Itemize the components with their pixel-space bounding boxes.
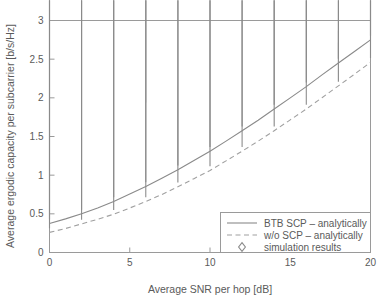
x-tick-label: 0 (47, 257, 53, 268)
figure-container: 00.511.522.53 05101520 Average SNR per h… (0, 0, 390, 303)
y-tick-label: 1.5 (30, 131, 44, 142)
y-tick-label: 0.5 (30, 208, 44, 219)
y-axis-ticks: 00.511.522.53 (30, 15, 55, 258)
x-tick-label: 5 (127, 257, 133, 268)
y-tick-label: 3 (38, 15, 44, 26)
y-tick-label: 1 (38, 170, 44, 181)
legend: BTB SCP – analytically w/o SCP – analyti… (221, 213, 371, 253)
legend-label-simulation-results: simulation results (264, 242, 341, 253)
y-axis-label: Average ergodic capacity per subcarrier … (4, 24, 16, 248)
y-tick-label: 2 (38, 92, 44, 103)
legend-label-wo-scp: w/o SCP – analytically (263, 230, 363, 241)
x-tick-label: 15 (285, 257, 297, 268)
chart-svg: 00.511.522.53 05101520 Average SNR per h… (0, 0, 390, 303)
y-tick-label: 0 (38, 247, 44, 258)
x-tick-label: 20 (365, 257, 377, 268)
y-tick-label: 2.5 (30, 54, 44, 65)
simulation-markers-lower (50, 0, 371, 228)
x-tick-label: 10 (204, 257, 216, 268)
legend-label-btb-scp: BTB SCP – analytically (264, 218, 367, 229)
x-axis-label: Average SNR per hop [dB] (148, 283, 272, 295)
